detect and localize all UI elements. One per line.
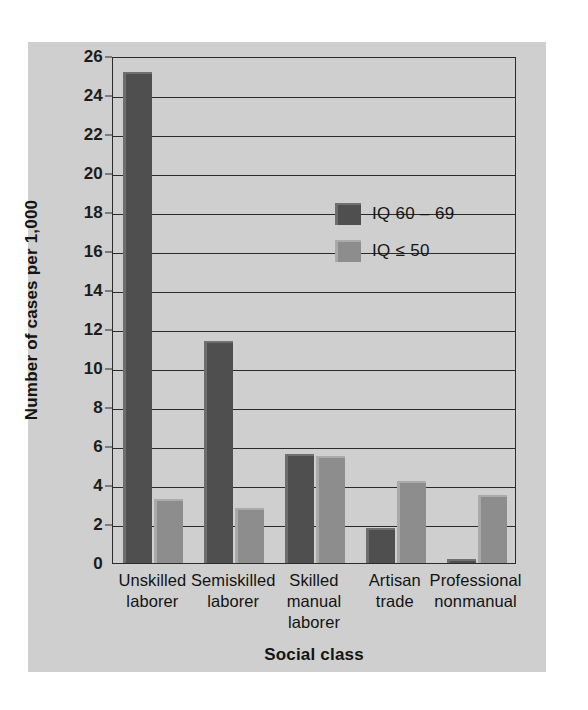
gridline [113, 370, 515, 371]
bar [366, 528, 395, 563]
gridline [113, 136, 515, 137]
bar [478, 495, 507, 563]
legend-item: IQ ≤ 50 [335, 232, 495, 269]
x-axis-tick-label-line: laborer [266, 612, 363, 633]
y-axis-tick-mark [105, 486, 112, 487]
y-axis-tick-mark [105, 291, 112, 292]
bar [397, 481, 426, 563]
y-axis-tick-mark [105, 408, 112, 409]
y-axis-tick-label: 10 [84, 359, 103, 379]
legend-label-iq-50: IQ ≤ 50 [372, 241, 430, 261]
y-axis-tick-label: 14 [84, 281, 103, 301]
legend-label-iq-60-69: IQ 60 – 69 [372, 204, 454, 224]
y-axis-tick-label: 2 [93, 515, 103, 535]
y-axis-tick-label: 16 [84, 242, 103, 262]
chart-figure: Number of cases per 1,000 02468101214161… [28, 42, 546, 672]
gridline [113, 448, 515, 449]
y-axis-tick-label: 6 [93, 437, 103, 457]
y-axis-tick-mark [105, 369, 112, 370]
bar [235, 508, 264, 563]
gridline [113, 292, 515, 293]
y-axis-tick-label: 26 [84, 47, 103, 67]
bar [316, 456, 345, 563]
x-axis-tick-label: Professionalnonmanual [427, 570, 524, 612]
x-axis-title: Social class [112, 645, 516, 665]
x-axis-tick-labels: UnskilledlaborerSemiskilledlaborerSkille… [112, 570, 516, 650]
y-axis-tick-mark [105, 213, 112, 214]
y-axis-tick-label: 20 [84, 164, 103, 184]
legend-swatch-iq-50 [335, 240, 361, 262]
y-axis-tick-mark [105, 252, 112, 253]
y-axis-tick-label: 22 [84, 125, 103, 145]
plot-area: IQ 60 – 69 IQ ≤ 50 [112, 57, 516, 564]
legend-item: IQ 60 – 69 [335, 195, 495, 232]
gridline [113, 331, 515, 332]
y-axis-tick-label: 8 [93, 398, 103, 418]
y-axis-title: Number of cases per 1,000 [22, 200, 42, 420]
bar [204, 341, 233, 563]
y-axis-tick-mark [105, 57, 112, 58]
x-axis-tick-label-line: nonmanual [427, 591, 524, 612]
y-axis-tick-label: 0 [93, 554, 103, 574]
bar [447, 559, 476, 563]
y-axis-tick-mark [105, 447, 112, 448]
bar [123, 72, 152, 563]
legend-swatch-iq-60-69 [335, 203, 361, 225]
y-axis-tick-label: 24 [84, 86, 103, 106]
y-axis-tick-label: 4 [93, 476, 103, 496]
bar [154, 499, 183, 563]
gridline [113, 97, 515, 98]
y-axis-tick-mark [105, 525, 112, 526]
y-axis-tick-label: 12 [84, 320, 103, 340]
gridline [113, 487, 515, 488]
y-axis-tick-mark [105, 96, 112, 97]
chart-legend: IQ 60 – 69 IQ ≤ 50 [335, 195, 495, 269]
gridline [113, 175, 515, 176]
gridline [113, 409, 515, 410]
y-axis-tick-mark [105, 330, 112, 331]
bar [285, 454, 314, 563]
y-axis-tick-mark [105, 174, 112, 175]
x-axis-tick-label-line: Professional [427, 570, 524, 591]
y-axis-tick-mark [105, 135, 112, 136]
y-axis-tick-label: 18 [84, 203, 103, 223]
